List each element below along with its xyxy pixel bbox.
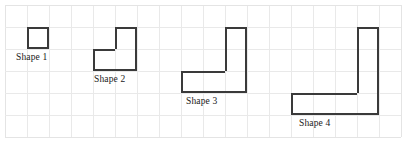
shape-edge [313,113,335,115]
shape-edge [181,91,203,93]
shape-edge [377,27,379,49]
shape-edge [291,93,293,115]
shape-edge [135,49,137,71]
shape-edge [93,49,95,71]
shape-edge [27,27,49,29]
shape-edge [245,27,247,49]
shape-cell [357,49,379,71]
shape-cell [357,71,379,93]
shape-edge [181,71,183,93]
shape-cell [203,71,225,93]
shape-edge [335,93,357,95]
shape-edge [135,27,137,49]
shape-edge [115,69,137,71]
shape-edge [203,71,225,73]
shape-cell [357,93,379,115]
shape-edge [357,49,359,71]
shape-edge [115,27,117,49]
shape-edge [27,47,49,49]
shape-edge [291,93,313,95]
shape-edge [93,69,115,71]
shape-edge [225,27,227,49]
shape-edge [377,71,379,93]
shape-edge [225,49,227,71]
shape-cell [335,93,357,115]
shape-cell [225,27,247,49]
shape-sequence-figure: Shape 1Shape 2Shape 3Shape 4 [0,0,407,147]
shape-edge [245,49,247,71]
shape-cell [225,71,247,93]
shape-cell [225,49,247,71]
shape-edge [115,27,137,29]
shape-edge [47,27,49,49]
shape-cell [27,27,49,49]
shape-cell [93,49,115,71]
shape-edge [27,27,29,49]
shape-edge [377,93,379,115]
shape-label: Shape 4 [299,118,330,129]
shape-edge [335,113,357,115]
shape-label: Shape 3 [186,96,217,107]
shape-label: Shape 2 [94,74,125,85]
shape-cell [313,93,335,115]
shape-edge [181,71,203,73]
shape-edge [357,27,379,29]
shape-edge [245,71,247,93]
shape-edge [291,113,313,115]
shape-edge [357,27,359,49]
shape-edge [377,49,379,71]
shape-edge [225,27,247,29]
shape-cell [291,93,313,115]
shape-cell [357,27,379,49]
shape-cell [115,27,137,49]
shape-edge [357,113,379,115]
shape-edge [313,93,335,95]
shape-edge [225,91,247,93]
shape-label: Shape 1 [16,52,47,63]
shape-edge [357,71,359,93]
shape-cell [181,71,203,93]
shape-edge [203,91,225,93]
shape-cell [115,49,137,71]
shape-edge [93,49,115,51]
